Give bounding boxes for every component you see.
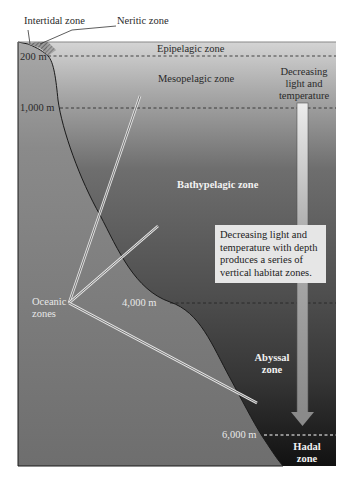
callout-lines: [28, 26, 116, 44]
depth-label-200m: 200 m: [20, 51, 47, 63]
hadal-zone-label: Hadal zone: [290, 441, 324, 465]
arrow-label-line3: temperature: [272, 90, 336, 102]
epipelagic-zone-label: Epipelagic zone: [157, 43, 224, 55]
mesopelagic-zone-label: Mesopelagic zone: [158, 73, 234, 85]
arrow-label: Decreasing light and temperature: [272, 66, 336, 102]
oceanic-line2: zones: [32, 308, 66, 320]
arrow-label-line2: light and: [272, 78, 336, 90]
bathypelagic-zone-label: Bathypelagic zone: [177, 179, 258, 191]
neritic-zone-label: Neritic zone: [117, 15, 169, 27]
arrow-label-line1: Decreasing: [272, 66, 336, 78]
intertidal-zone-label: Intertidal zone: [24, 15, 85, 27]
abyssal-line1: Abyssal: [252, 352, 292, 364]
abyssal-line2: zone: [252, 364, 292, 376]
hadal-line1: Hadal: [290, 441, 324, 453]
depth-label-4000m: 4,000 m: [122, 297, 156, 309]
oceanic-line1: Oceanic: [32, 296, 66, 308]
explanation-note: Decreasing light and temperature with de…: [215, 225, 326, 283]
depth-label-6000m: 6,000 m: [222, 429, 256, 441]
abyssal-zone-label: Abyssal zone: [252, 352, 292, 376]
hadal-line2: zone: [290, 453, 324, 465]
depth-label-1000m: 1,000 m: [20, 102, 54, 114]
oceanic-zones-label: Oceanic zones: [32, 296, 66, 320]
